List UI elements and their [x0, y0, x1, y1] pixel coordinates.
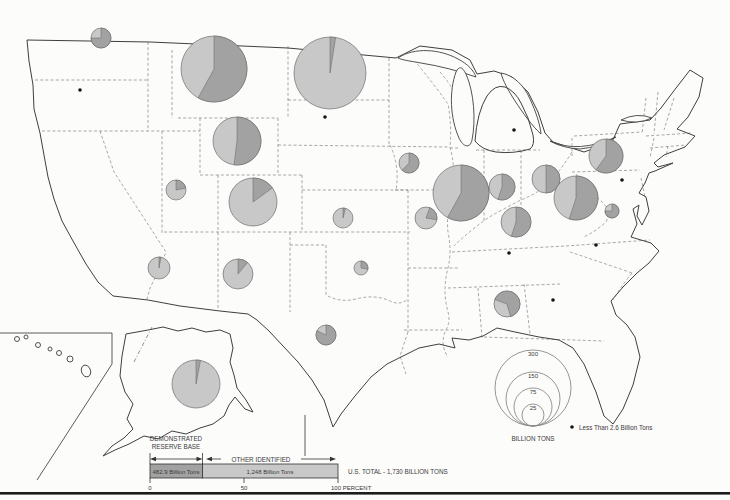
size-legend-value: 300 — [528, 351, 539, 357]
pie-wyoming — [213, 117, 261, 165]
pie-kentucky — [501, 207, 531, 237]
scale-50: 50 — [241, 485, 248, 491]
pie-alaska — [172, 360, 220, 408]
scale-0: 0 — [148, 485, 152, 491]
pie-demonstrated-segment — [234, 117, 261, 165]
hawaii-islands — [15, 335, 93, 378]
pie-indiana — [489, 174, 515, 200]
pie-new-mexico — [223, 259, 253, 289]
scale-100-percent: 100 PERCENT — [331, 485, 372, 491]
dot-legend-label: Less Than 2.6 Billion Tons — [579, 424, 652, 431]
map-canvas: 3001507525 BILLION TONS Less Than 2.6 Bi… — [0, 0, 730, 500]
pie-oklahoma — [354, 261, 368, 275]
dot-oregon — [78, 88, 82, 92]
lake-michigan — [451, 68, 474, 146]
pie-montana — [181, 36, 247, 102]
dot-legend-marker — [570, 425, 574, 429]
size-legend-value: 150 — [528, 373, 539, 379]
size-legend-circle-150 — [506, 372, 560, 426]
size-legend-title: BILLION TONS — [511, 435, 554, 442]
pie-utah — [166, 180, 186, 200]
dot-georgia — [551, 298, 555, 302]
pie-demonstrated-segment — [361, 261, 368, 269]
size-legend-value: 75 — [530, 389, 537, 395]
lake-ontario — [621, 115, 652, 122]
pie-illinois — [433, 165, 489, 221]
pie-texas — [316, 325, 336, 345]
other-value: 1,248 Billion Tons — [247, 469, 294, 475]
size-legend-value: 25 — [530, 405, 537, 411]
pie-washington — [91, 28, 111, 48]
pie-alabama — [494, 291, 520, 317]
demonstrated-label-line2: RESERVE BASE — [152, 443, 201, 450]
pie-iowa — [399, 153, 419, 173]
reserve-bar-legend: DEMONSTRATED RESERVE BASE OTHER IDENTIFI… — [148, 435, 447, 491]
pie-north-dakota — [294, 37, 366, 109]
pie-virginia-maryland — [605, 204, 619, 218]
pie-west-virginia — [554, 176, 598, 220]
pie-pennsylvania — [589, 139, 623, 173]
coal-resources-map-figure: 3001507525 BILLION TONS Less Than 2.6 Bi… — [0, 0, 730, 500]
dot-tennessee — [507, 251, 511, 255]
dot-michigan — [512, 128, 516, 132]
dot-north-carolina — [594, 243, 598, 247]
figure-bottom-rule — [0, 492, 730, 495]
pie-demonstrated-segment — [176, 180, 186, 190]
size-legend: 3001507525 BILLION TONS — [495, 350, 571, 442]
pie-kansas — [333, 208, 353, 228]
dot-legend: Less Than 2.6 Billion Tons — [570, 424, 652, 431]
us-total-label: U.S. TOTAL - 1,730 BILLION TONS — [348, 468, 448, 475]
pie-colorado — [229, 178, 277, 226]
dot-new-jersey — [620, 178, 624, 182]
other-identified-label: OTHER IDENTIFIED — [232, 456, 291, 463]
pie-arizona — [148, 257, 170, 279]
demonstrated-label-line1: DEMONSTRATED — [150, 435, 203, 442]
us-outline — [27, 40, 703, 427]
demonstrated-value: 482.9 Billion Tons — [153, 469, 200, 475]
pie-missouri — [415, 207, 437, 229]
dot-south-dakota — [323, 115, 327, 119]
inset-border-diagonal — [37, 364, 112, 480]
